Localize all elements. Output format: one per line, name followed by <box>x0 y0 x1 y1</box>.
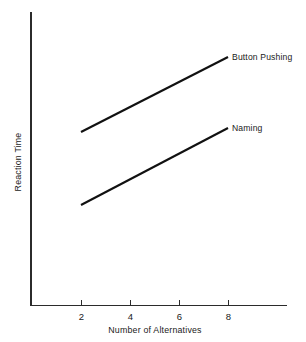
series-label-button-pushing: Button Pushing <box>232 52 292 62</box>
x-tick-label-6: 6 <box>177 311 182 322</box>
y-axis-title: Reaction Time <box>13 133 23 192</box>
chart-canvas: 2 4 6 8 Button Pushing Naming Number of … <box>0 0 306 342</box>
x-tick-label-4: 4 <box>128 311 133 322</box>
series-line-naming <box>81 128 228 205</box>
series-line-button-pushing <box>81 57 228 132</box>
chart-figure: 2 4 6 8 Button Pushing Naming Number of … <box>0 0 306 342</box>
series-label-naming: Naming <box>232 123 263 133</box>
x-tick-label-2: 2 <box>79 311 84 322</box>
x-axis-title: Number of Alternatives <box>108 325 202 335</box>
x-tick-label-8: 8 <box>226 311 231 322</box>
